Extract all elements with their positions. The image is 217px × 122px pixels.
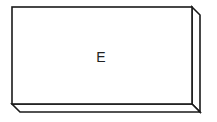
box-diagram: E <box>0 0 217 122</box>
3d-box <box>12 7 200 112</box>
box-bottom-face <box>12 104 200 112</box>
box-right-face <box>192 7 200 112</box>
box-label: E <box>96 49 105 65</box>
